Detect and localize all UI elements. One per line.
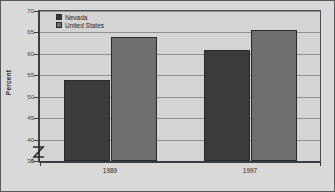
y-axis-title: Percent (5, 57, 12, 109)
y-axis-tick-mark (34, 75, 39, 76)
y-axis-tick-label: 40 (10, 137, 34, 143)
legend-swatch-icon (56, 14, 62, 20)
x-axis-tick-label: 1989 (90, 167, 130, 175)
y-axis-tick-label: 50 (10, 94, 34, 100)
chart-frame: 70656055504540350 Percent NevadaUnited S… (0, 0, 335, 192)
axis-break-icon (31, 144, 45, 162)
bar-united-states-1997 (251, 30, 297, 161)
y-axis-tick-mark (34, 161, 39, 162)
chart-title (1, 1, 335, 6)
y-axis-tick-label: 65 (10, 29, 34, 35)
y-axis-tick-mark (34, 140, 39, 141)
y-axis-tick-mark (34, 97, 39, 98)
bar-nevada-1997 (204, 50, 250, 161)
x-axis-line (39, 161, 321, 163)
y-axis-tick-mark (34, 118, 39, 119)
x-axis-tick-label: 1997 (230, 167, 270, 175)
x-axis-tick-mark (320, 162, 321, 166)
legend-label: United States (65, 22, 104, 29)
y-axis-tick-label: 60 (10, 51, 34, 57)
y-axis-tick-label: 70 (10, 8, 34, 14)
chart-legend: NevadaUnited States (54, 12, 107, 30)
legend-item: United States (56, 21, 104, 29)
legend-item: Nevada (56, 13, 104, 21)
y-axis-tick-label: 45 (10, 115, 34, 121)
y-axis-tick-mark (34, 54, 39, 55)
bar-nevada-1989 (64, 80, 110, 161)
bar-united-states-1989 (111, 37, 157, 161)
legend-label: Nevada (65, 14, 87, 21)
y-axis-tick-mark (34, 11, 39, 12)
y-axis-tick-mark (34, 32, 39, 33)
x-axis-tick-mark (40, 162, 41, 166)
y-axis-tick-label: 55 (10, 72, 34, 78)
legend-swatch-icon (56, 22, 62, 28)
